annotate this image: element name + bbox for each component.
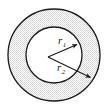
- annulus-diagram-canvas: r1 r2: [0, 0, 108, 111]
- radius-2-subscript: 2: [62, 68, 66, 76]
- radius-1-subscript: 1: [63, 41, 67, 49]
- annulus-diagram-figure: r1 r2: [0, 0, 108, 111]
